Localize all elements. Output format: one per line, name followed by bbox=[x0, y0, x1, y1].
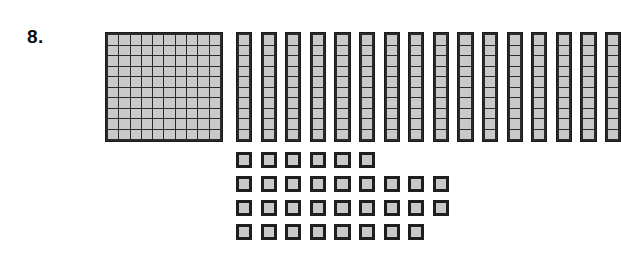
flat-cell bbox=[153, 56, 163, 66]
rod-cell bbox=[460, 56, 470, 66]
flat-cell bbox=[108, 88, 118, 98]
rod-cell bbox=[264, 109, 274, 119]
rod-cell bbox=[485, 77, 495, 87]
flat-cell bbox=[164, 88, 174, 98]
flat-cell bbox=[108, 46, 118, 56]
rod-cell bbox=[313, 88, 323, 98]
flat-cell bbox=[164, 56, 174, 66]
flat-cell bbox=[142, 46, 152, 56]
flat-cell bbox=[108, 35, 118, 45]
flat-cell bbox=[131, 119, 141, 129]
rod-cell bbox=[559, 88, 569, 98]
rod-cell bbox=[362, 109, 372, 119]
hundred-flat-block bbox=[105, 32, 223, 142]
unit-cube-block bbox=[261, 200, 277, 216]
flat-cell bbox=[142, 130, 152, 140]
ten-rod-block bbox=[531, 32, 547, 142]
rod-cell bbox=[239, 119, 249, 129]
flat-cell bbox=[164, 130, 174, 140]
unit-cube-block bbox=[359, 176, 375, 192]
rod-cell bbox=[387, 88, 397, 98]
rod-cell bbox=[534, 98, 544, 108]
rod-cell bbox=[313, 67, 323, 77]
flat-cell bbox=[142, 98, 152, 108]
rod-cell bbox=[362, 119, 372, 129]
rod-cell bbox=[288, 88, 298, 98]
flat-cell bbox=[142, 88, 152, 98]
flat-cell bbox=[131, 46, 141, 56]
ones-units-group bbox=[236, 152, 449, 248]
rod-cell bbox=[337, 88, 347, 98]
unit-cube-block bbox=[384, 224, 400, 240]
rod-cell bbox=[387, 46, 397, 56]
flat-cell bbox=[108, 77, 118, 87]
unit-cube-block bbox=[384, 176, 400, 192]
flat-cell bbox=[187, 56, 197, 66]
flat-cell bbox=[198, 46, 208, 56]
rod-cell bbox=[264, 77, 274, 87]
rod-cell bbox=[264, 35, 274, 45]
flat-cell bbox=[198, 119, 208, 129]
unit-cube-block bbox=[334, 176, 350, 192]
rod-cell bbox=[583, 88, 593, 98]
rod-cell bbox=[362, 35, 372, 45]
unit-cube-block bbox=[334, 224, 350, 240]
rod-cell bbox=[485, 130, 495, 140]
flat-cell bbox=[198, 35, 208, 45]
rod-cell bbox=[288, 109, 298, 119]
rod-cell bbox=[387, 35, 397, 45]
flat-cell bbox=[198, 88, 208, 98]
flat-cell bbox=[119, 56, 129, 66]
ten-rod-block bbox=[310, 32, 326, 142]
flat-cell bbox=[142, 77, 152, 87]
flat-cell bbox=[164, 67, 174, 77]
flat-cell bbox=[131, 35, 141, 45]
rod-cell bbox=[534, 35, 544, 45]
rod-cell bbox=[239, 56, 249, 66]
rod-cell bbox=[460, 98, 470, 108]
rod-cell bbox=[510, 35, 520, 45]
rod-cell bbox=[313, 46, 323, 56]
rod-cell bbox=[583, 98, 593, 108]
rod-cell bbox=[583, 67, 593, 77]
rod-cell bbox=[337, 119, 347, 129]
flat-cell bbox=[142, 119, 152, 129]
rod-cell bbox=[534, 109, 544, 119]
unit-cube-block bbox=[359, 200, 375, 216]
flat-cell bbox=[164, 119, 174, 129]
rod-cell bbox=[559, 46, 569, 56]
rod-cell bbox=[583, 35, 593, 45]
hundreds-flat-group bbox=[105, 32, 223, 142]
flat-cell bbox=[119, 98, 129, 108]
rod-cell bbox=[485, 119, 495, 129]
rod-cell bbox=[362, 77, 372, 87]
rod-cell bbox=[510, 88, 520, 98]
unit-cube-block bbox=[261, 224, 277, 240]
flat-cell bbox=[198, 109, 208, 119]
ten-rod-block bbox=[285, 32, 301, 142]
rod-cell bbox=[362, 88, 372, 98]
rod-cell bbox=[411, 77, 421, 87]
flat-cell bbox=[210, 119, 220, 129]
flat-cell bbox=[142, 35, 152, 45]
ones-row bbox=[236, 152, 449, 168]
flat-cell bbox=[131, 88, 141, 98]
rod-cell bbox=[608, 56, 618, 66]
unit-cube-block bbox=[433, 200, 449, 216]
rod-cell bbox=[288, 56, 298, 66]
rod-cell bbox=[411, 130, 421, 140]
problem-number-label: 8. bbox=[27, 27, 44, 46]
rod-cell bbox=[510, 77, 520, 87]
flat-cell bbox=[176, 119, 186, 129]
flat-cell bbox=[119, 119, 129, 129]
rod-cell bbox=[436, 109, 446, 119]
rod-cell bbox=[313, 119, 323, 129]
flat-cell bbox=[176, 130, 186, 140]
flat-cell bbox=[198, 67, 208, 77]
rod-cell bbox=[387, 119, 397, 129]
flat-cell bbox=[131, 67, 141, 77]
rod-cell bbox=[534, 77, 544, 87]
ten-rod-block bbox=[384, 32, 400, 142]
flat-cell bbox=[153, 35, 163, 45]
